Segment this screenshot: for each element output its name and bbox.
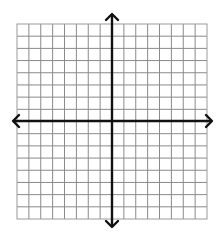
coordinate-grid-svg <box>0 0 219 233</box>
coordinate-plane <box>0 0 219 233</box>
